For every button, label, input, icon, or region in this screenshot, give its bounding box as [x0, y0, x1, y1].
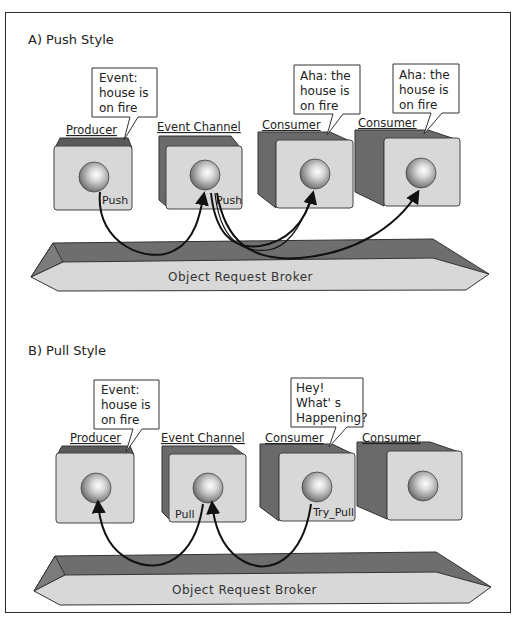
svg-text:on fire: on fire [399, 98, 437, 112]
orb-bar-pull: Object Request Broker [34, 552, 491, 605]
sphere-icon [190, 160, 220, 190]
svg-text:What' s: What' s [296, 396, 341, 410]
sphere-icon [406, 158, 436, 188]
svg-text:Aha: the: Aha: the [399, 68, 450, 82]
producer-component: Producer [56, 431, 134, 523]
event-channel-component: Event Channel Pull [161, 431, 246, 522]
push-style-section: A) Push Style Object Request Broker Prod… [28, 32, 489, 291]
svg-text:house is: house is [300, 84, 350, 98]
orb-label: Object Request Broker [168, 270, 313, 284]
pull-style-section: B) Pull Style Object Request Broker Prod… [28, 343, 491, 605]
consumer-component: Consumer [355, 116, 460, 206]
svg-text:Hey!: Hey! [296, 381, 324, 395]
svg-text:on fire: on fire [99, 101, 137, 115]
section-title-pull: B) Pull Style [28, 343, 106, 358]
component-label: Producer [70, 431, 121, 445]
producer-component: Producer Push [54, 123, 132, 210]
port-label: Push [102, 194, 128, 207]
sphere-icon [79, 162, 109, 192]
event-channel-component: Event Channel Push [157, 120, 242, 209]
event-service-diagram: A) Push Style Object Request Broker Prod… [0, 0, 519, 618]
consumer-component: Consumer [258, 118, 353, 208]
sphere-icon [193, 473, 223, 503]
svg-text:on fire: on fire [101, 413, 139, 427]
component-label: Event Channel [157, 120, 241, 134]
svg-text:on fire: on fire [300, 99, 338, 113]
component-label: Consumer [265, 431, 324, 445]
component-label: Consumer [358, 116, 417, 130]
section-title-push: A) Push Style [28, 32, 114, 47]
consumer-component: Consumer Try_Pull [260, 431, 355, 521]
svg-text:house is: house is [99, 86, 149, 100]
svg-text:Happening?: Happening? [296, 411, 368, 425]
sphere-icon [300, 159, 330, 189]
port-label: Pull [175, 508, 195, 521]
sphere-icon [302, 472, 332, 502]
port-label: Try_Pull [312, 506, 354, 519]
svg-text:house is: house is [399, 83, 449, 97]
svg-text:house is: house is [101, 398, 151, 412]
component-label: Event Channel [161, 431, 245, 445]
orb-label: Object Request Broker [172, 583, 317, 597]
consumer-component: Consumer [357, 431, 462, 520]
component-label: Consumer [362, 431, 421, 445]
sphere-icon [408, 471, 438, 501]
svg-text:Aha: the: Aha: the [300, 69, 351, 83]
svg-text:Event:: Event: [101, 383, 139, 397]
component-label: Producer [66, 123, 117, 137]
svg-text:Event:: Event: [99, 71, 137, 85]
sphere-icon [81, 473, 111, 503]
component-label: Consumer [262, 118, 321, 132]
